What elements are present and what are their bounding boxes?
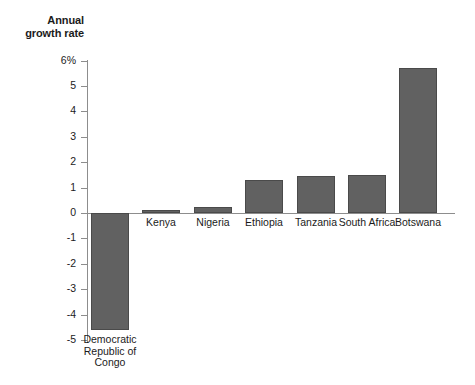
y-axis-tick-label: 6% [34, 55, 76, 66]
y-axis-line [87, 60, 88, 343]
bar [91, 213, 129, 330]
y-axis-tick [81, 162, 87, 163]
y-axis-tick-label: 3 [34, 131, 76, 142]
y-axis-tick-label: 4 [34, 105, 76, 116]
y-axis-tick [81, 111, 87, 112]
y-axis-tick-label: -2 [34, 258, 76, 269]
y-axis-tick [81, 137, 87, 138]
bar [194, 207, 232, 213]
y-axis-tick-label: 5 [34, 80, 76, 91]
bar [245, 180, 283, 213]
y-axis-tick [81, 61, 87, 62]
bar [399, 68, 437, 213]
bar [297, 176, 335, 213]
y-axis-tick-label: -1 [34, 232, 76, 243]
zero-baseline [87, 213, 455, 214]
x-axis-category-label: Botswana [378, 217, 458, 229]
bar [348, 175, 386, 213]
y-axis-tick [81, 86, 87, 87]
y-axis-tick [81, 264, 87, 265]
bar-chart-figure: Annual growth rate 6%543210-1-2-3-4-5 De… [0, 0, 475, 385]
y-axis-tick-label: 1 [34, 182, 76, 193]
y-axis-tick [81, 188, 87, 189]
bar [142, 210, 180, 213]
y-axis-tick-label: 2 [34, 156, 76, 167]
y-axis-tick-label: -3 [34, 283, 76, 294]
y-axis-tick-label: -4 [34, 309, 76, 320]
y-axis-tick [81, 315, 87, 316]
y-axis-tick [81, 213, 87, 214]
y-axis-tick [81, 238, 87, 239]
y-axis-tick-label: 0 [34, 207, 76, 218]
x-axis-category-label: Democratic Republic of Congo [70, 334, 150, 369]
y-axis-tick [81, 289, 87, 290]
y-axis-title: Annual growth rate [0, 14, 84, 40]
